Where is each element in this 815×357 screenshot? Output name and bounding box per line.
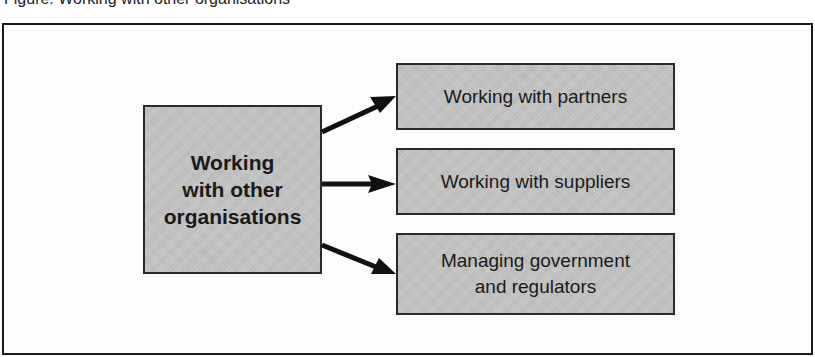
target-node-working-with-partners: Working with partners xyxy=(396,63,675,130)
figure-caption-cropped: Figure: Working with other organisations xyxy=(0,0,815,8)
source-label-line-3: organisations xyxy=(164,203,302,230)
target-label-government-line-1: Managing government xyxy=(441,248,630,274)
target-node-managing-government-and-regulators: Managing government and regulators xyxy=(396,233,675,315)
source-node-working-with-other-organisations: Working with other organisations xyxy=(143,105,322,274)
source-node-label: Working with other organisations xyxy=(164,149,302,230)
target-label-suppliers: Working with suppliers xyxy=(441,169,631,195)
target-node-working-with-suppliers: Working with suppliers xyxy=(396,148,675,215)
target-label-government-line-2: and regulators xyxy=(441,274,630,300)
source-label-line-1: Working xyxy=(164,149,302,176)
target-label-government: Managing government and regulators xyxy=(441,248,630,300)
source-label-line-2: with other xyxy=(164,176,302,203)
figure-caption-text: Figure: Working with other organisations xyxy=(4,0,290,8)
target-label-partners: Working with partners xyxy=(444,84,627,110)
